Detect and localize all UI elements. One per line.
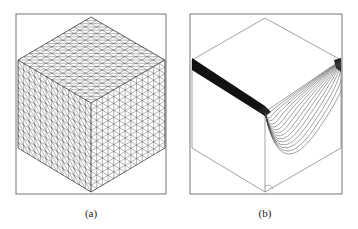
contour-cube — [192, 18, 345, 192]
panel-b — [190, 14, 345, 194]
mesh-cube — [18, 17, 165, 192]
figure-canvas — [0, 0, 358, 229]
panel-a — [16, 14, 166, 194]
dense-contour-band — [192, 58, 265, 116]
caption-a: (a) — [71, 207, 111, 219]
caption-b: (b) — [245, 207, 285, 219]
panel-b-frame — [190, 14, 342, 194]
